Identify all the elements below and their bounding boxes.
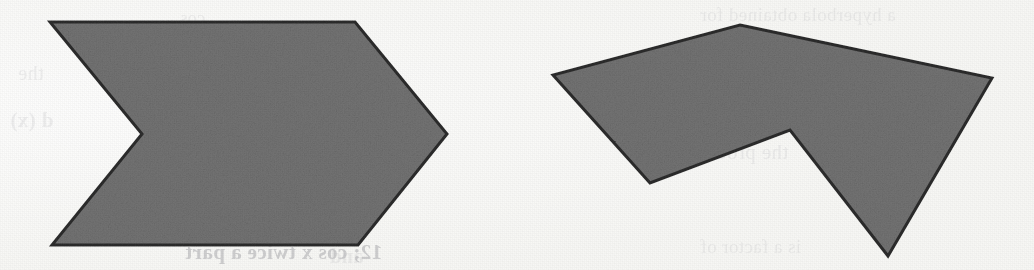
polygons-svg (0, 0, 1034, 270)
figure-page: a hyperbola obtained forthe processis a … (0, 0, 1034, 270)
concave-chevron-polygon (50, 22, 447, 245)
shape-canvas (0, 0, 1034, 270)
concave-arrow-polygon (553, 25, 992, 256)
